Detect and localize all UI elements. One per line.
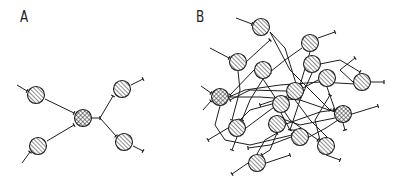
axon-connection [266, 155, 290, 163]
neuron-node [273, 96, 290, 113]
neuron-node [230, 54, 247, 71]
neuron-node-crosshatched [75, 110, 92, 127]
axon-connection [326, 155, 340, 160]
synapse-terminal [343, 129, 347, 130]
neuron-node [287, 83, 304, 100]
neuron-node [116, 134, 133, 151]
neuron-node [253, 19, 270, 36]
neuron-node-crosshatched [335, 106, 352, 123]
axon-connection [352, 106, 378, 114]
neuron-node [229, 120, 246, 137]
neuron-node-crosshatched [212, 89, 229, 106]
axon-connection [100, 118, 116, 136]
synapse-terminal [142, 77, 144, 81]
neuron-node [269, 116, 286, 133]
axon-connection [232, 137, 237, 150]
synapse-terminal [289, 153, 290, 157]
neuron-node [28, 87, 45, 104]
axon-connection [17, 85, 27, 91]
neuron-node [30, 138, 47, 155]
neural-network-diagram [0, 0, 405, 189]
synapse-terminal [142, 149, 144, 153]
neuron-node [304, 56, 321, 73]
synapse-terminal [229, 98, 231, 102]
axon-connection [131, 79, 143, 85]
axon-connection [343, 123, 345, 130]
axon-connection [286, 110, 334, 124]
axon-connection [22, 152, 30, 163]
axon-connection [47, 125, 74, 141]
axon-connection [203, 101, 211, 110]
synapse-terminal [73, 111, 75, 115]
axon-connection [100, 96, 113, 118]
axon-connection [280, 118, 335, 125]
neuron-node [292, 129, 309, 146]
axon-connection [248, 137, 291, 148]
neuron-node [319, 70, 336, 87]
synapse-terminal [339, 158, 340, 162]
neuron-node [354, 74, 371, 91]
neuron-node [114, 81, 131, 98]
neuron-node [302, 35, 319, 52]
axon-connection [45, 99, 74, 113]
axon-connection [318, 32, 335, 38]
panel-b-network [201, 18, 384, 176]
axon-connection [315, 95, 330, 140]
axon-connection [133, 146, 143, 151]
axon-connection [210, 48, 229, 58]
synapse-terminal [259, 103, 260, 107]
axon-connection [262, 133, 277, 155]
synapse-terminal [248, 146, 249, 150]
synapse-terminal [230, 149, 234, 150]
neuron-node [318, 138, 335, 155]
neuron-node [249, 155, 266, 172]
axon-connection [201, 86, 211, 93]
axon-connection [232, 163, 248, 174]
axon-connection [242, 79, 263, 120]
axon-connection [246, 40, 270, 62]
synapse-terminal [377, 104, 378, 108]
panel-a-network [17, 77, 144, 163]
synapse-terminal [334, 108, 335, 112]
neuron-node [255, 62, 272, 79]
axon-connection [236, 18, 252, 24]
synapse-terminal [334, 30, 335, 34]
